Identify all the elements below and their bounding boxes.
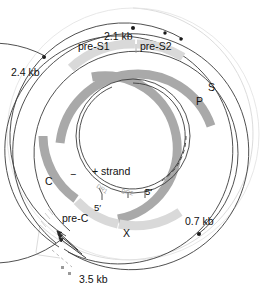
transcript-tail-2	[58, 234, 82, 254]
gene-label-p: P	[196, 95, 203, 107]
gene-label-pre-s2: pre-S2	[140, 40, 172, 52]
transcript-tail-3	[59, 238, 86, 258]
transcript-0-7kb-dot	[197, 232, 201, 236]
transcript-3-5kb-label: 3.5 kb	[79, 273, 108, 285]
gene-arc-p-band	[92, 76, 177, 219]
five-prime-minus: 5′	[94, 194, 102, 213]
genome-map-figure: 3.5 kb 2.4 kb 2.1 kb 0.7 kb pre-S1 pre-S…	[0, 0, 268, 293]
transcript-3-5kb-marker-2	[68, 272, 71, 275]
transcript-3-5kb-leader	[52, 250, 72, 275]
genome-map-svg: 3.5 kb 2.4 kb 2.1 kb 0.7 kb pre-S1 pre-S…	[0, 0, 268, 293]
faint-tick-2	[45, 213, 50, 219]
transcript-2-4kb-label: 2.4 kb	[11, 66, 40, 78]
transcript-3-5kb-marker-1	[61, 266, 64, 269]
gene-arc-p	[92, 76, 177, 219]
dr1-label: DR1	[95, 183, 109, 195]
transcript-2-1kb-dot-b	[163, 31, 166, 34]
dr2-label: DR2	[121, 188, 135, 197]
faint-tick-3	[43, 217, 48, 223]
gene-label-x: X	[123, 227, 130, 239]
gene-label-pre-c: pre-C	[62, 212, 89, 224]
plus-strand-label: + strand	[92, 165, 130, 177]
minus-strand-label: −	[70, 168, 76, 180]
five-prime-plus: 5′	[145, 186, 152, 198]
transcript-0-7kb-label: 0.7 kb	[185, 215, 214, 227]
gene-label-pre-s1: pre-S1	[78, 40, 110, 52]
transcript-2-1kb-dot-c	[179, 37, 182, 40]
five-prime-minus-label: 5′	[94, 202, 101, 213]
gene-label-c: C	[45, 175, 53, 187]
gene-label-s: S	[208, 81, 215, 93]
five-prime-plus-label: 5′	[145, 186, 152, 197]
